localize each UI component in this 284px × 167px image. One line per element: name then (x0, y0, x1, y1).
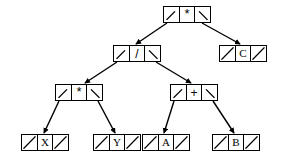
right-pointer-cell (244, 135, 259, 150)
right-pointer-cell (174, 135, 189, 150)
left-pointer-cell (114, 46, 129, 61)
left-pointer-cell (94, 135, 109, 150)
node-data-cell: X (37, 135, 53, 150)
expression-tree-diagram: */C*+XYAB (0, 0, 284, 167)
tree-node-mul[interactable]: * (55, 84, 103, 101)
tree-node-leaf-y[interactable]: Y (93, 134, 141, 151)
left-pointer-cell (220, 46, 235, 61)
node-data-cell: A (158, 135, 174, 150)
edge-add-a (164, 101, 174, 133)
edge-root-div (136, 23, 167, 44)
left-pointer-cell (213, 135, 228, 150)
null-pointer-slash-icon (22, 135, 37, 150)
null-pointer-slash-icon (143, 135, 158, 150)
null-pointer-slash-icon (251, 46, 266, 61)
null-pointer-slash-icon (220, 46, 235, 61)
tree-node-leaf-c[interactable]: C (219, 45, 267, 62)
pointer-link-slash-icon (145, 46, 160, 61)
edge-root-c (202, 23, 240, 44)
pointer-link-slash-icon (171, 85, 186, 100)
pointer-link-slash-icon (195, 7, 210, 22)
null-pointer-slash-icon (125, 135, 140, 150)
left-pointer-cell (22, 135, 37, 150)
null-pointer-slash-icon (213, 135, 228, 150)
node-data-cell: B (228, 135, 244, 150)
pointer-link-slash-icon (87, 85, 102, 100)
pointer-link-slash-icon (202, 85, 217, 100)
edge-add-b (213, 101, 234, 133)
right-pointer-cell (87, 85, 102, 100)
pointer-link-slash-icon (56, 85, 71, 100)
left-pointer-cell (164, 7, 179, 22)
edge-div-mul (85, 62, 117, 83)
right-pointer-cell (202, 85, 217, 100)
node-data-cell: C (235, 46, 251, 61)
null-pointer-slash-icon (244, 135, 259, 150)
tree-node-leaf-b[interactable]: B (212, 134, 260, 151)
null-pointer-slash-icon (94, 135, 109, 150)
left-pointer-cell (171, 85, 186, 100)
null-pointer-slash-icon (53, 135, 68, 150)
pointer-link-slash-icon (114, 46, 129, 61)
right-pointer-cell (251, 46, 266, 61)
left-pointer-cell (143, 135, 158, 150)
right-pointer-cell (145, 46, 160, 61)
tree-node-div[interactable]: / (113, 45, 161, 62)
node-data-cell: Y (109, 135, 125, 150)
node-data-cell: * (179, 7, 195, 22)
tree-node-root[interactable]: * (163, 6, 211, 23)
right-pointer-cell (53, 135, 68, 150)
node-data-cell: / (129, 46, 145, 61)
edge-mul-x (44, 101, 59, 133)
node-data-cell: * (71, 85, 87, 100)
tree-node-leaf-x[interactable]: X (21, 134, 69, 151)
right-pointer-cell (125, 135, 140, 150)
tree-node-leaf-a[interactable]: A (142, 134, 190, 151)
left-pointer-cell (56, 85, 71, 100)
edge-div-add (156, 62, 191, 83)
edge-mul-y (98, 101, 115, 133)
right-pointer-cell (195, 7, 210, 22)
pointer-link-slash-icon (164, 7, 179, 22)
tree-node-add[interactable]: + (170, 84, 218, 101)
null-pointer-slash-icon (174, 135, 189, 150)
node-data-cell: + (186, 85, 202, 100)
